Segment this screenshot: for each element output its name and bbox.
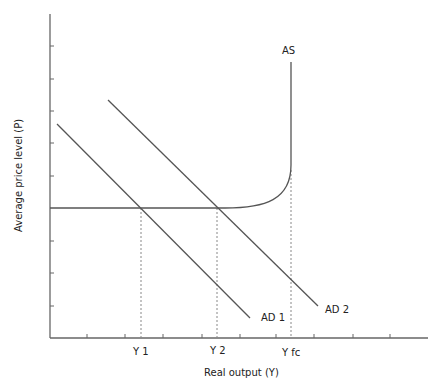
as-label: AS	[282, 45, 295, 56]
as-curve	[50, 62, 291, 208]
y1-tick-label: Y 1	[132, 346, 149, 357]
ad1-label: AD 1	[261, 312, 285, 323]
ad2-label: AD 2	[325, 304, 349, 315]
y-axis-title: Average price level (P)	[13, 119, 24, 232]
yfc-tick-label: Y fc	[281, 347, 300, 358]
ad-as-diagram: AS AD 1 AD 2 Y 1 Y 2 Y fc Real output (Y…	[0, 0, 440, 380]
x-axis-title: Real output (Y)	[204, 367, 279, 378]
y2-tick-label: Y 2	[209, 345, 226, 356]
ad2-curve	[108, 100, 318, 306]
ad1-curve	[57, 124, 250, 318]
